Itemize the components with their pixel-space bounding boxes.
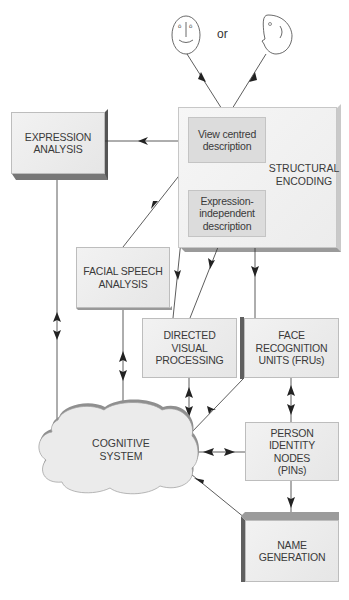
fru-line1: FACE	[278, 329, 305, 342]
fru-line3: UNITS (FRUs)	[259, 354, 325, 367]
cognitive-system-line2: SYSTEM	[85, 450, 157, 463]
structural-encoding-line2: ENCODING	[268, 175, 340, 188]
expression-independent-description-box: Expression- independent description	[188, 190, 266, 237]
directed-visual-line3: PROCESSING	[155, 354, 223, 367]
pin-line2: IDENTITY	[269, 439, 315, 452]
name-generation-line2: GENERATION	[259, 551, 326, 564]
cognitive-system-line1: COGNITIVE	[85, 437, 157, 450]
directed-visual-line2: VISUAL	[171, 342, 207, 355]
diagram-connections: ō ō	[0, 0, 349, 600]
or-label: or	[217, 27, 228, 41]
expression-analysis-line1: EXPRESSION	[25, 131, 91, 144]
pin-line1: PERSON	[270, 427, 313, 440]
name-generation-box: NAME GENERATION	[245, 520, 339, 582]
expression-independent-line2: independent	[199, 207, 255, 220]
facial-speech-line2: ANALYSIS	[99, 278, 148, 291]
expression-analysis-box: EXPRESSION ANALYSIS	[11, 112, 105, 174]
front-face-icon: ō ō	[172, 16, 200, 54]
directed-visual-line1: DIRECTED	[163, 329, 215, 342]
pin-line3: NODES	[274, 452, 310, 465]
structural-encoding-label: STRUCTURAL ENCODING	[268, 162, 340, 187]
expression-independent-line1: Expression-	[200, 195, 253, 208]
face-recognition-units-box: FACE RECOGNITION UNITS (FRUs)	[244, 318, 339, 378]
structural-encoding-line1: STRUCTURAL	[268, 162, 340, 175]
cognitive-system-label: COGNITIVE SYSTEM	[85, 437, 157, 462]
name-generation-line1: NAME	[277, 539, 307, 552]
pin-line4: (PINs)	[278, 464, 307, 477]
view-centred-line2: description	[203, 140, 252, 153]
expression-analysis-line2: ANALYSIS	[34, 143, 83, 156]
facial-speech-line1: FACIAL SPEECH	[83, 265, 162, 278]
profile-face-icon	[262, 15, 292, 54]
facial-speech-analysis-box: FACIAL SPEECH ANALYSIS	[76, 247, 170, 308]
expression-independent-line3: description	[203, 220, 252, 233]
view-centred-description-box: View centred description	[188, 117, 266, 163]
view-centred-line1: View centred	[198, 128, 256, 141]
fru-line2: RECOGNITION	[256, 342, 328, 355]
person-identity-nodes-box: PERSON IDENTITY NODES (PINs)	[245, 422, 339, 481]
directed-visual-processing-box: DIRECTED VISUAL PROCESSING	[142, 318, 237, 378]
